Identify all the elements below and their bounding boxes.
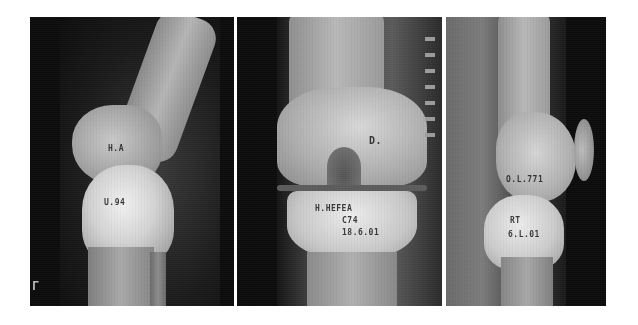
fibula-shaft xyxy=(150,252,166,306)
annotation-line-2: C74 xyxy=(342,215,358,226)
tibial-plateau xyxy=(287,191,417,261)
tibia-shaft xyxy=(307,252,397,306)
xray-panel-lateral-right: O.L.771 RT 6.L.01 xyxy=(446,17,606,306)
annotation-line-1: H.HEFEA xyxy=(315,203,352,214)
femoral-condyle xyxy=(496,112,576,202)
patella xyxy=(574,119,594,181)
intercondylar-notch xyxy=(327,147,361,187)
xray-panel-lateral-left: H.A U.94 Γ xyxy=(30,17,234,306)
annotation-line-2: 6.L.01 xyxy=(508,229,540,240)
annotation-line-1: RT xyxy=(510,215,521,226)
annotation-line-3: 18.6.01 xyxy=(342,227,379,238)
annotation-upper: D. xyxy=(369,135,382,146)
tibia-shaft xyxy=(88,247,154,306)
annotation-upper: O.L.771 xyxy=(506,174,543,185)
annotation-lower: U.94 xyxy=(104,197,125,208)
surgical-staples xyxy=(425,37,435,137)
orientation-mark: Γ xyxy=(32,281,40,292)
annotation-upper: H.A xyxy=(108,143,124,154)
tibia-shaft xyxy=(501,257,553,306)
xray-panel-anteroposterior: D. H.HEFEA C74 18.6.01 xyxy=(237,17,442,306)
